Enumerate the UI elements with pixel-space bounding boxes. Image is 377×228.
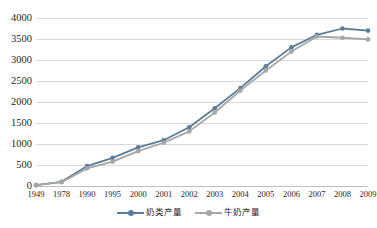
y-tick-label: 500 — [0, 160, 32, 171]
data-point-marker — [110, 159, 115, 164]
x-tick-label: 2005 — [257, 190, 274, 199]
legend-label: 奶类产量 — [146, 208, 182, 217]
data-point-marker — [340, 26, 345, 31]
x-tick-label: 2007 — [308, 190, 325, 199]
data-point-marker — [187, 125, 192, 130]
y-tick-label: 3500 — [0, 34, 32, 45]
legend-marker-icon — [206, 210, 212, 216]
data-point-marker — [136, 149, 141, 154]
data-point-marker — [187, 129, 192, 134]
x-tick-label: 2009 — [360, 190, 377, 199]
x-tick-label: 2008 — [334, 190, 351, 199]
y-tick-label: 2500 — [0, 76, 32, 87]
plot-area — [36, 18, 368, 186]
y-tick-label: 2000 — [0, 97, 32, 108]
data-point-marker — [264, 68, 269, 73]
legend-marker-icon — [128, 210, 134, 216]
line-chart: 05001000150020002500300035004000 1949197… — [0, 0, 377, 228]
data-point-marker — [59, 180, 64, 185]
legend-entry[interactable]: 牛奶产量 — [195, 208, 260, 217]
y-tick-label: 1500 — [0, 118, 32, 129]
data-point-marker — [340, 35, 345, 40]
x-tick-label: 2004 — [232, 190, 249, 199]
y-tick-label: 1000 — [0, 139, 32, 150]
data-point-marker — [212, 106, 217, 111]
chart-legend: 奶类产量牛奶产量 — [0, 208, 377, 217]
data-point-marker — [366, 37, 371, 42]
data-point-marker — [34, 183, 39, 188]
x-tick-label: 2006 — [283, 190, 300, 199]
x-tick-label: 1978 — [53, 190, 70, 199]
series-line — [36, 29, 368, 186]
data-point-marker — [212, 110, 217, 115]
data-point-marker — [366, 28, 371, 33]
legend-swatch — [195, 208, 222, 217]
legend-swatch — [117, 208, 144, 217]
x-tick-label: 1990 — [79, 190, 96, 199]
axis-baseline — [36, 186, 368, 187]
y-tick-label: 3000 — [0, 55, 32, 66]
data-point-marker — [289, 45, 294, 50]
x-tick-label: 2000 — [130, 190, 147, 199]
legend-label: 牛奶产量 — [224, 208, 260, 217]
data-point-marker — [85, 166, 90, 171]
legend-entry[interactable]: 奶类产量 — [117, 208, 182, 217]
x-tick-label: 1995 — [104, 190, 121, 199]
data-point-marker — [315, 34, 320, 39]
x-tick-label: 2002 — [181, 190, 198, 199]
x-tick-label: 2001 — [155, 190, 172, 199]
x-tick-label: 1949 — [28, 190, 45, 199]
x-tick-label: 2003 — [206, 190, 223, 199]
data-point-marker — [289, 49, 294, 54]
x-axis-labels: 1949197819901995200020012002200320042005… — [36, 190, 368, 206]
data-point-marker — [161, 140, 166, 145]
data-point-marker — [264, 64, 269, 69]
series-line — [36, 36, 368, 185]
y-tick-label: 4000 — [0, 13, 32, 24]
data-point-marker — [238, 88, 243, 93]
series-lines — [36, 18, 368, 186]
